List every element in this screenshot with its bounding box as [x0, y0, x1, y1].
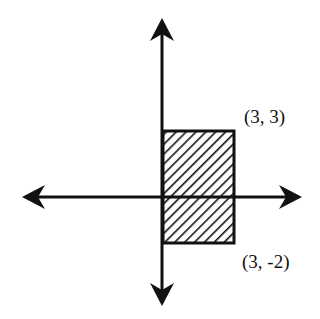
- coordinate-diagram: (3, 3) (3, -2): [0, 0, 320, 319]
- label-bottom-right-vertex: (3, -2): [242, 251, 289, 273]
- shaded-rectangle: [163, 131, 234, 243]
- label-top-right-vertex: (3, 3): [244, 106, 285, 128]
